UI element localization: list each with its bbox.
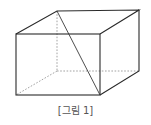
hidden-edge-bottom-depth: [16, 71, 57, 95]
top-face-edges: [16, 10, 139, 34]
visible-edges: [16, 10, 139, 95]
figure-caption: [그림 1]: [0, 104, 151, 118]
front-face: [16, 34, 100, 95]
right-face-edges: [100, 10, 139, 95]
box-figure: [그림 1]: [0, 0, 151, 125]
space-diagonal: [57, 11, 100, 95]
